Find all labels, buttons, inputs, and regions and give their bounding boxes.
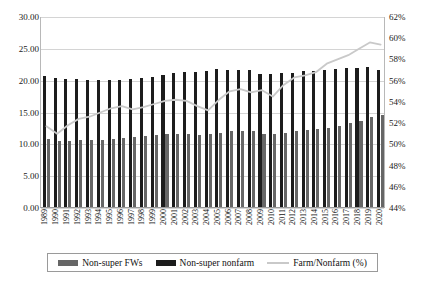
x-axis-tick-label: 2014 (311, 209, 319, 225)
x-axis-tick-label: 1996 (117, 209, 125, 225)
x-axis-tick-label: 2007 (235, 209, 243, 225)
y-axis-right-tick: 62% (389, 13, 406, 22)
line-series-layer (41, 17, 386, 208)
y-axis-left-tick: 20.00 (19, 77, 39, 86)
x-axis-tick-label: 1999 (149, 209, 157, 225)
x-axis-tick-label: 2020 (376, 209, 384, 225)
x-axis-tick-label: 2005 (214, 209, 222, 225)
plot-area (40, 17, 385, 208)
y-axis-right-tick: 54% (389, 98, 406, 107)
x-axis-tick-label: 2016 (332, 209, 340, 225)
y-axis-right-tick: 44% (389, 204, 406, 213)
x-axis-tick-label: 1993 (85, 209, 93, 225)
y-axis-right-tick: 46% (389, 183, 406, 192)
x-axis-tick-label: 2009 (257, 209, 265, 225)
x-axis-tick-label: 2004 (203, 209, 211, 225)
x-axis-tick-label: 2011 (279, 209, 287, 225)
y-axis-right-tick: 60% (389, 34, 406, 43)
x-axis-tick-label: 2013 (300, 209, 308, 225)
legend-item[interactable]: Farm/Nonfarm (%) (267, 258, 367, 268)
x-axis-tick-label: 2015 (322, 209, 330, 225)
x-axis-labels: 1989199019911992199319941995199619971998… (40, 209, 385, 251)
x-axis-tick-label: 1992 (74, 209, 82, 225)
legend-label: Non-super nonfarm (180, 258, 255, 268)
x-axis-tick-label: 2010 (268, 209, 276, 225)
x-axis-tick-label: 2017 (343, 209, 351, 225)
y-axis-left-tick: 10.00 (19, 140, 39, 149)
x-axis-tick-label: 2006 (225, 209, 233, 225)
y-axis-right-tick: 52% (389, 119, 406, 128)
line-farm-nonfarm-pct (46, 42, 380, 133)
x-axis-tick-label: 1995 (106, 209, 114, 225)
y-axis-left-tick: 30.00 (19, 13, 39, 22)
x-axis-tick-label: 1998 (138, 209, 146, 225)
legend-item[interactable]: Non-super nonfarm (156, 258, 255, 268)
y-axis-left-tick: 25.00 (19, 45, 39, 54)
y-axis-right-tick: 48% (389, 162, 406, 171)
gray-line-swatch (267, 262, 289, 264)
legend-label: Farm/Nonfarm (%) (293, 258, 367, 268)
y-axis-right-tick: 56% (389, 77, 406, 86)
x-axis-tick-label: 1989 (41, 209, 49, 225)
x-axis-tick-label: 2001 (171, 209, 179, 225)
x-axis-tick-label: 2019 (365, 209, 373, 225)
y-axis-left-tick: 15.00 (19, 109, 39, 118)
x-axis-tick-label: 2018 (354, 209, 362, 225)
x-axis-tick-label: 2002 (182, 209, 190, 225)
y-axis-left-tick: 0.00 (23, 204, 39, 213)
legend-item[interactable]: Non-super FWs (58, 258, 142, 268)
y-axis-right-tick: 50% (389, 140, 406, 149)
x-axis-tick-label: 2012 (289, 209, 297, 225)
x-axis-tick-label: 2003 (192, 209, 200, 225)
chart-container: 1989199019911992199319941995199619971998… (0, 0, 428, 282)
x-axis-tick-label: 1997 (128, 209, 136, 225)
black-bar-swatch (156, 260, 176, 266)
x-axis-tick-label: 1991 (63, 209, 71, 225)
x-axis-tick-label: 2008 (246, 209, 254, 225)
gray-bar-swatch (58, 260, 78, 266)
y-axis-right-tick: 58% (389, 55, 406, 64)
chart-legend: Non-super FWsNon-super nonfarmFarm/Nonfa… (47, 253, 378, 272)
legend-label: Non-super FWs (82, 258, 142, 268)
x-axis-tick-label: 1990 (52, 209, 60, 225)
x-axis-tick-label: 1994 (95, 209, 103, 225)
x-axis-tick-label: 2000 (160, 209, 168, 225)
y-axis-left-tick: 5.00 (23, 172, 39, 181)
